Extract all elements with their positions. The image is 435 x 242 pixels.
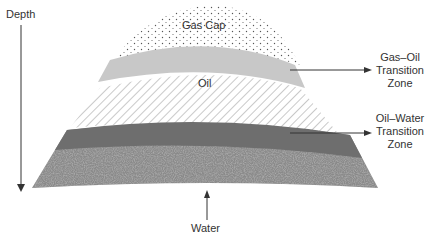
depth-label: Depth xyxy=(6,8,35,21)
oil-water-transition-label: Oil–Water Transition Zone xyxy=(372,112,428,151)
gas-oil-arrow-icon xyxy=(364,67,372,73)
water-label: Water xyxy=(191,222,220,235)
gas-cap-label: Gas Cap xyxy=(182,19,225,32)
oil-label: Oil xyxy=(198,77,211,90)
depth-arrow-icon xyxy=(17,184,25,192)
reservoir-diagram xyxy=(0,0,435,242)
water-arrow-icon xyxy=(204,190,210,198)
gas-oil-transition-label: Gas–Oil Transition Zone xyxy=(375,51,425,90)
oil-water-arrow-icon xyxy=(364,130,372,136)
